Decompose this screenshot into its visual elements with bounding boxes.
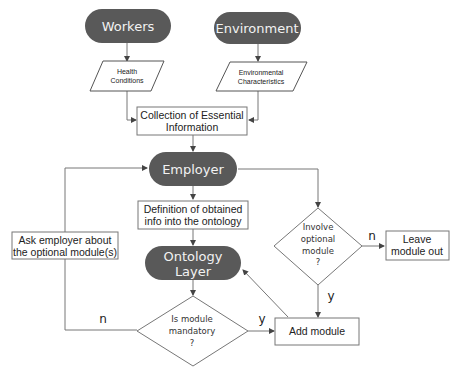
ontology-line1: Ontology — [163, 249, 222, 264]
node-health-conditions: Health Conditions — [90, 61, 164, 91]
edge-label-involve-yes: y — [327, 289, 334, 303]
ask-line1: Ask employer about — [19, 234, 112, 246]
add-module-label: Add module — [289, 325, 345, 337]
edge-add-ontology — [243, 270, 288, 317]
mandatory-line2: mandatory — [169, 326, 216, 336]
involve-line2: optional — [301, 234, 335, 244]
edge-envchar-collection — [249, 91, 258, 120]
node-workers: Workers — [85, 9, 171, 43]
node-add-module: Add module — [275, 318, 359, 345]
leave-line1: Leave — [403, 233, 432, 245]
parallelogram-shape — [90, 61, 164, 91]
ask-line2: the optional module(s) — [13, 246, 117, 258]
workers-label: Workers — [102, 19, 155, 34]
employer-label: Employer — [162, 162, 224, 177]
envchar-line2: Characteristics — [238, 78, 285, 85]
mandatory-line3: ? — [190, 338, 195, 348]
collection-line1: Collection of Essential — [140, 109, 243, 121]
mandatory-line1: Is module — [171, 314, 213, 324]
involve-line4: ? — [316, 257, 321, 267]
node-environment: Environment — [214, 12, 301, 44]
node-ask-employer: Ask employer about the optional module(s… — [12, 232, 118, 259]
node-leave-module-out: Leave module out — [386, 231, 449, 260]
node-employer: Employer — [149, 152, 237, 186]
involve-line1: Involve — [303, 222, 334, 232]
definition-line2: info into the ontology — [145, 215, 243, 227]
node-definition: Definition of obtained info into the ont… — [138, 201, 248, 229]
node-is-mandatory: Is module mandatory ? — [137, 296, 248, 366]
involve-line3: module — [302, 246, 334, 256]
leave-line2: module out — [391, 245, 443, 257]
edge-employer-involve — [238, 169, 318, 207]
edge-health-collection — [127, 91, 136, 120]
node-environmental-characteristics: Environmental Characteristics — [216, 62, 307, 91]
node-collection: Collection of Essential Information — [137, 107, 247, 135]
definition-line1: Definition of obtained — [144, 203, 243, 215]
health-line1: Health — [117, 68, 137, 75]
health-line2: Conditions — [110, 77, 144, 84]
collection-line2: Information — [166, 121, 219, 133]
edge-label-involve-no: n — [368, 229, 376, 243]
envchar-line1: Environmental — [239, 69, 284, 76]
node-involve-optional: Involve optional module ? — [274, 208, 362, 285]
node-ontology-layer: Ontology Layer — [145, 246, 241, 280]
edge-label-mandatory-yes: y — [258, 312, 265, 326]
edge-label-mandatory-no: n — [99, 312, 107, 326]
flowchart-diagram: Workers Environment Health Conditions En… — [0, 0, 463, 373]
ontology-line2: Layer — [175, 264, 212, 279]
parallelogram-shape — [216, 62, 307, 91]
environment-label: Environment — [215, 21, 298, 36]
